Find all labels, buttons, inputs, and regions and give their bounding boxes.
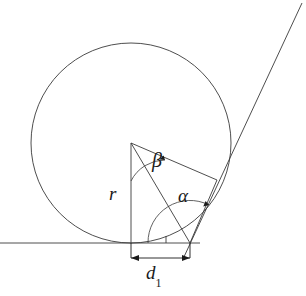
angle-label-beta: β [152,150,162,170]
geometry-canvas [0,0,306,296]
distance-symbol: d [146,262,156,283]
dimension-arrow-right [182,255,190,261]
distance-subscript: 1 [156,276,162,290]
tangent-ray [183,3,302,259]
radius-label: r [109,184,116,203]
apex-to-tangent-segment [190,180,217,243]
angle-label-alpha: α [178,186,188,205]
distance-label-d1: d1 [146,263,162,286]
geometry-diagram: r α β d1 [0,0,306,296]
dimension-arrow-left [131,255,139,261]
center-to-tangent-line [131,143,217,180]
